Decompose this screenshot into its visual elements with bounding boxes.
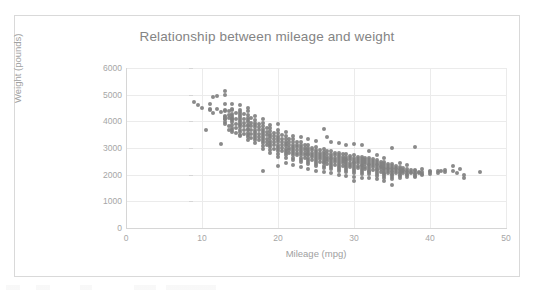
scatter-point: [204, 128, 208, 132]
scatter-point: [458, 167, 462, 171]
scatter-point: [276, 164, 280, 168]
scatter-point: [375, 153, 379, 157]
x-axis-line: [126, 228, 507, 229]
scatter-point: [299, 135, 303, 139]
scatter-point: [451, 164, 455, 168]
gridline-horizontal: [126, 201, 506, 202]
y-axis-ticks: 0100020003000400050006000: [82, 68, 122, 228]
gridline-vertical: [202, 68, 203, 228]
scatter-point: [276, 122, 280, 126]
scatter-point: [284, 161, 288, 165]
scatter-point: [344, 143, 348, 147]
gridline-horizontal: [126, 175, 506, 176]
scatter-point: [462, 176, 466, 180]
scatter-point: [329, 140, 333, 144]
gridline-vertical: [354, 68, 355, 228]
scatter-point: [428, 172, 432, 176]
y-tick-mark: [189, 68, 193, 69]
scatter-point: [322, 127, 326, 131]
y-tick-mark: [189, 121, 193, 122]
scatter-point: [200, 106, 204, 110]
scatter-point: [337, 173, 341, 177]
scatter-point: [219, 142, 223, 146]
scatter-point: [390, 177, 394, 181]
scatter-point: [455, 171, 459, 175]
scatter-point: [337, 141, 341, 145]
scatter-point: [230, 102, 234, 106]
scatter-point: [405, 175, 409, 179]
scatter-point: [314, 139, 318, 143]
scatter-point: [413, 175, 417, 179]
x-tick-label: 30: [334, 233, 374, 243]
scatter-point: [367, 149, 371, 153]
scatter-point: [306, 167, 310, 171]
gridline-vertical: [506, 68, 507, 228]
scatter-point: [215, 94, 219, 98]
scatter-point: [478, 170, 482, 174]
y-tick-label: 5000: [88, 90, 122, 100]
scatter-point: [261, 169, 265, 173]
x-tick-label: 50: [486, 233, 526, 243]
scatter-point: [352, 142, 356, 146]
y-tick-mark: [189, 201, 193, 202]
scatter-point: [382, 179, 386, 183]
y-tick-mark: [189, 148, 193, 149]
scatter-point: [375, 177, 379, 181]
y-tick-label: 3000: [88, 143, 122, 153]
scatter-point: [253, 114, 257, 118]
y-tick-label: 0: [88, 223, 122, 233]
y-axis-line: [126, 68, 127, 229]
scatter-point: [284, 156, 288, 160]
y-tick-mark: [189, 175, 193, 176]
scatter-point: [261, 147, 265, 151]
gridline-horizontal: [126, 95, 506, 96]
scatter-point: [413, 145, 417, 149]
x-tick-label: 0: [106, 233, 146, 243]
scatter-point: [299, 165, 303, 169]
scatter-point: [253, 141, 257, 145]
scatter-point: [211, 111, 215, 115]
x-tick-label: 20: [258, 233, 298, 243]
gridline-horizontal: [126, 68, 506, 69]
x-tick-label: 10: [182, 233, 222, 243]
scatter-point: [390, 146, 394, 150]
y-tick-mark: [189, 228, 193, 229]
y-tick-label: 2000: [88, 170, 122, 180]
scatter-point: [276, 155, 280, 159]
gridline-vertical: [430, 68, 431, 228]
scatter-point: [314, 169, 318, 173]
scatter-point: [398, 176, 402, 180]
chart-card: Relationship between mileage and weight …: [14, 15, 520, 277]
scatter-point: [306, 137, 310, 141]
page-bottom-artifact: [6, 285, 216, 290]
scatter-point: [360, 143, 364, 147]
scatter-point: [314, 164, 318, 168]
gridline-horizontal: [126, 121, 506, 122]
scatter-point: [352, 179, 356, 183]
scatter-point: [344, 174, 348, 178]
scatter-point: [360, 176, 364, 180]
scatter-point: [420, 173, 424, 177]
y-tick-mark: [189, 95, 193, 96]
scatter-point: [299, 160, 303, 164]
scatter-point: [382, 156, 386, 160]
scatter-point: [325, 135, 329, 139]
scatter-point: [390, 183, 394, 187]
x-axis-label: Mileage (mpg): [126, 248, 506, 259]
scatter-point: [322, 170, 326, 174]
chart-title: Relationship between mileage and weight: [15, 29, 519, 44]
scatter-point: [208, 102, 212, 106]
y-tick-label: 4000: [88, 116, 122, 126]
scatter-point: [223, 93, 227, 97]
scatter-point: [268, 151, 272, 155]
scatter-point: [367, 176, 371, 180]
y-tick-label: 6000: [88, 63, 122, 73]
x-axis-ticks: 01020304050: [126, 233, 506, 247]
scatter-point: [291, 163, 295, 167]
plot-area: [126, 68, 506, 228]
y-tick-label: 1000: [88, 196, 122, 206]
scatter-point: [238, 103, 242, 107]
scatter-point: [291, 158, 295, 162]
x-tick-label: 40: [410, 233, 450, 243]
y-axis-label: Weight (pounds): [12, 33, 23, 103]
